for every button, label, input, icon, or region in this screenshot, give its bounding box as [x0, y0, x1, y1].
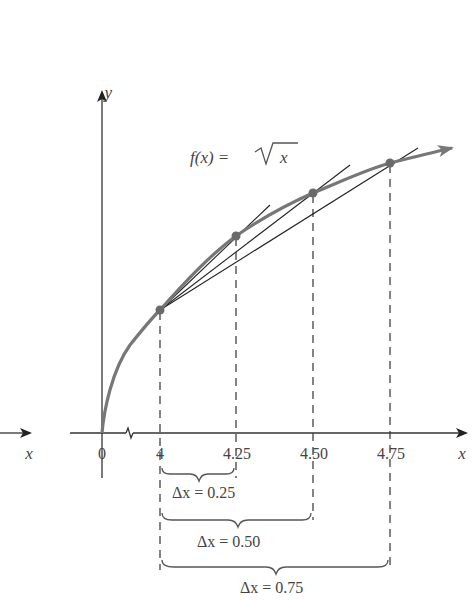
- delta-label-075: Δx = 0.75: [240, 579, 303, 596]
- dashed-guides: [160, 165, 390, 570]
- function-radicand: x: [279, 148, 288, 167]
- secant-line-3: [160, 148, 418, 310]
- point-x475: [386, 159, 395, 168]
- tick-label-4: 4: [156, 445, 164, 462]
- point-x4: [156, 306, 165, 315]
- brace-050: [162, 513, 311, 527]
- curve-points: [156, 159, 395, 315]
- secant-lines-diagram: y x x 0 4 4.25 4.50 4.75 f(x) = x Δx = 0…: [0, 0, 476, 600]
- secant-line-2: [160, 165, 350, 310]
- x-axis-label: x: [457, 444, 466, 463]
- delta-label-050: Δx = 0.50: [197, 533, 260, 550]
- secant-lines: [160, 148, 418, 310]
- sqrt-curve: [102, 148, 452, 433]
- x-axis: [70, 428, 466, 438]
- secant-line-1: [160, 205, 270, 310]
- point-x450: [309, 189, 318, 198]
- y-axis-label: y: [102, 83, 112, 102]
- svg-text:f(x) =: f(x) =: [190, 148, 229, 167]
- function-prefix: f(x) =: [190, 148, 229, 167]
- function-label: f(x) = x: [190, 143, 298, 167]
- origin-label: 0: [98, 445, 106, 462]
- point-x425: [232, 232, 241, 241]
- axis-break-icon: [126, 428, 133, 438]
- brace-075: [162, 560, 388, 574]
- delta-label-025: Δx = 0.25: [172, 484, 235, 501]
- tick-label-475: 4.75: [377, 445, 405, 462]
- brace-025: [162, 468, 234, 481]
- radical-icon: [255, 143, 298, 164]
- tick-label-425: 4.25: [223, 445, 251, 462]
- left-x-label: x: [24, 444, 33, 463]
- tick-label-450: 4.50: [300, 445, 328, 462]
